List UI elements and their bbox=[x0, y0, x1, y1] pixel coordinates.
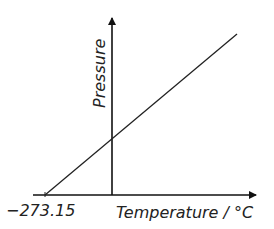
data-line bbox=[45, 34, 237, 195]
intercept-label: −273.15 bbox=[6, 201, 75, 220]
y-axis-label: Pressure bbox=[90, 39, 109, 108]
chart-canvas bbox=[0, 0, 274, 229]
x-axis-label: Temperature / °C bbox=[116, 203, 253, 222]
